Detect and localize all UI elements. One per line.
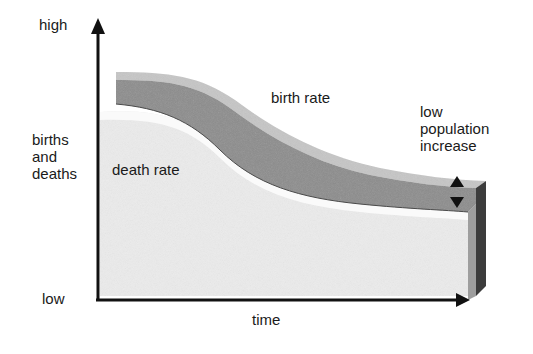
- y-axis-title-line: deaths: [32, 165, 77, 182]
- x-axis-title: time: [252, 311, 280, 328]
- y-axis-title: births and deaths: [32, 131, 77, 182]
- annotation-line: increase: [420, 137, 489, 154]
- annotation-low-population-increase: low population increase: [420, 103, 489, 154]
- diagram-canvas: [0, 0, 533, 354]
- death-rate-label: death rate: [112, 161, 180, 178]
- annotation-line: low: [420, 103, 489, 120]
- y-axis-high-label: high: [39, 16, 67, 33]
- y-axis-title-line: births: [32, 131, 77, 148]
- y-axis-title-line: and: [32, 148, 77, 165]
- birth-rate-label: birth rate: [271, 89, 330, 106]
- y-axis-low-label: low: [42, 290, 65, 307]
- annotation-line: population: [420, 120, 489, 137]
- y-axis-arrow-icon: [91, 18, 105, 34]
